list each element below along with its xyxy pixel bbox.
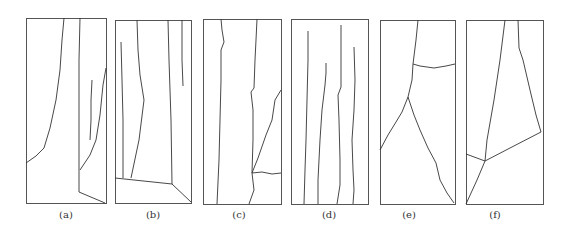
crack-line [466, 154, 485, 161]
panel-label: (d) [322, 209, 336, 220]
crack-line [182, 20, 183, 86]
panel-a [26, 18, 107, 204]
crack-line [252, 90, 281, 173]
panel-frame [116, 21, 192, 204]
crack-pattern-figure [0, 0, 566, 236]
panel-d [292, 20, 369, 205]
crack-line [304, 31, 308, 204]
crack-line [115, 178, 191, 202]
panel-label: (e) [402, 209, 416, 220]
crack-line [168, 20, 172, 184]
panel-e [380, 20, 456, 205]
crack-line [413, 64, 455, 68]
panel-frame [204, 20, 282, 205]
crack-line [80, 68, 106, 170]
panel-label: (f) [489, 209, 501, 220]
crack-line [90, 80, 92, 140]
panel-label: (c) [232, 209, 245, 220]
panel-label: (b) [146, 209, 160, 220]
crack-line [79, 18, 105, 203]
panel-frame [27, 19, 107, 204]
crack-line [252, 172, 281, 174]
crack-line [518, 20, 541, 132]
crack-line [26, 18, 64, 163]
crack-line [408, 20, 418, 97]
crack-line [121, 42, 123, 178]
crack-line [217, 19, 224, 204]
panel-f [466, 20, 544, 205]
crack-line [249, 19, 257, 204]
panel-frame [381, 21, 456, 205]
crack-line [380, 97, 408, 150]
crack-line [485, 132, 541, 161]
crack-line [352, 47, 355, 204]
panel-c [204, 19, 282, 205]
crack-line [485, 20, 505, 161]
crack-line [318, 63, 326, 204]
crack-line [466, 161, 485, 204]
panel-b [115, 20, 192, 204]
crack-line [408, 97, 454, 203]
crack-line [131, 20, 144, 178]
panel-frame [292, 20, 369, 205]
panel-label: (a) [59, 209, 73, 220]
crack-line [337, 25, 341, 204]
